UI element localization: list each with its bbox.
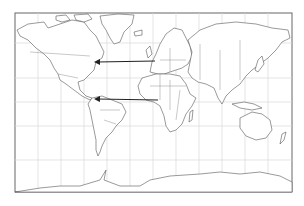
world-map [0,0,304,206]
